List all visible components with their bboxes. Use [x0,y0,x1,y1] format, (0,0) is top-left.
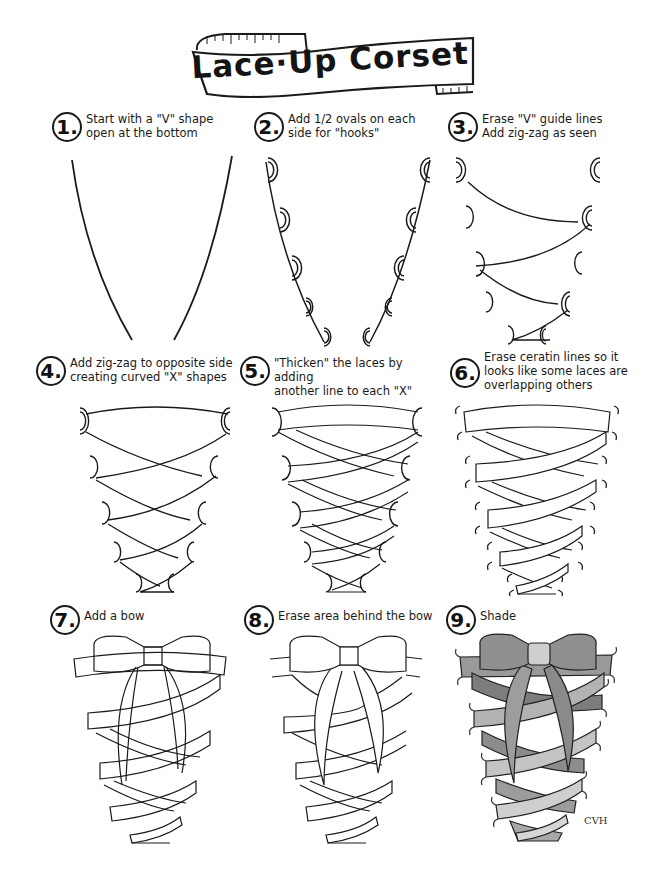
step-instruction: Add 1/2 ovals on each side for "hooks" [288,112,416,140]
step-number-badge: 2. [254,112,284,142]
title-banner: Lace·Up Corset [185,28,475,98]
hooks-drawing [258,152,438,347]
step-1: 1. Start with a "V" shape open at the bo… [52,112,257,342]
step-number-badge: 4. [36,356,66,386]
step-number-badge: 1. [52,112,82,142]
step-instruction: Erase ceratin lines so it looks like som… [484,350,628,392]
step-7: 7. Add a bow [50,605,255,875]
step-instruction: Erase area behind the bow [278,609,432,623]
step-5: 5. "Thicken" the laces by adding another… [240,356,445,596]
step-number-badge: 9. [446,605,476,635]
step-instruction: Add zig-zag to opposite side creating cu… [70,356,233,384]
step-6: 6. Erase ceratin lines so it looks like … [450,350,655,595]
zigzag-drawing [450,152,630,347]
step-8: 8. Erase area behind the bow [244,605,449,875]
step-number-badge: 3. [448,112,478,142]
step-instruction: Start with a "V" shape open at the botto… [86,112,213,140]
overlapping-laces-drawing [452,402,622,597]
step-instruction: Erase "V" guide lines Add zig-zag as see… [482,112,602,140]
step-number-badge: 6. [450,358,480,388]
thick-laces-drawing [262,402,432,597]
step-number-badge: 8. [244,605,274,635]
v-shape-drawing [62,152,242,342]
step-9: 9. Shade CVH [446,605,651,875]
bow-erased-drawing [262,635,432,845]
step-2: 2. Add 1/2 ovals on each side for "hooks… [254,112,459,342]
step-number-badge: 5. [240,356,270,386]
step-4: 4. Add zig-zag to opposite side creating… [36,356,241,596]
x-laces-drawing [70,402,240,597]
step-instruction: "Thicken" the laces by adding another li… [274,356,445,398]
shaded-corset-drawing [452,633,622,843]
artist-signature: CVH [584,815,608,826]
step-number-badge: 7. [50,605,80,635]
step-3: 3. Erase "V" guide lines Add zig-zag as … [448,112,653,342]
bow-outline-drawing [66,635,236,845]
step-instruction: Shade [480,609,516,623]
step-instruction: Add a bow [84,609,144,623]
